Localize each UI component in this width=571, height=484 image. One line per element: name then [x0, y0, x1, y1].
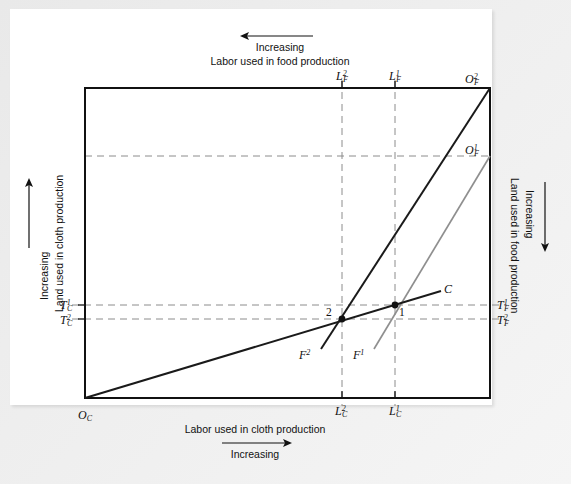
bottom-tick-label-l-c-2: L2C	[335, 404, 347, 420]
edgeworth-box	[85, 88, 490, 398]
point-2-label: 2	[326, 306, 332, 320]
point-marker-2	[339, 316, 346, 323]
origin-label-o-c: OC	[78, 408, 92, 424]
top-caption-increasing: Increasing	[180, 41, 380, 53]
curve-label-c: C	[444, 282, 452, 296]
right-tick-label-t-f-2: T2F	[497, 313, 509, 329]
bottom-tick-label-l-c-1: L1C	[389, 404, 401, 420]
dashed-guides	[72, 80, 505, 406]
left-caption-increasing: Increasing	[38, 252, 50, 300]
left-caption-label: Land used in cloth production	[53, 175, 65, 312]
bottom-caption-arrow	[222, 439, 292, 447]
curve-F1	[374, 156, 490, 349]
tick-marks	[78, 81, 395, 398]
point-marker-1	[392, 302, 399, 309]
right-caption-increasing: Increasing	[524, 190, 536, 238]
curve-C	[85, 291, 441, 398]
curve-label-f-2: F2	[299, 348, 310, 362]
right-caption-arrow	[541, 182, 549, 252]
left-tick-label-t-c-2: T2C	[60, 313, 72, 329]
bottom-caption-increasing: Increasing	[155, 448, 355, 460]
top-caption-arrow	[240, 32, 313, 40]
bottom-caption-label: Labor used in cloth production	[155, 423, 355, 435]
top-tick-label-l-f-1: L1F	[389, 69, 401, 85]
origin-label-o-f-2: O2F	[465, 72, 479, 88]
top-caption-label: Labor used in food production	[180, 55, 380, 67]
curve-F2	[321, 88, 490, 349]
right-caption-label: Land used in food production	[509, 178, 521, 313]
left-caption-arrow	[25, 178, 33, 248]
top-tick-label-l-f-2: L2F	[336, 69, 348, 85]
point-1-label: 1	[399, 306, 405, 320]
origin-label-o-f-1: O1F	[465, 143, 479, 159]
curve-label-f-1: F1	[353, 348, 364, 362]
right-tick-label-t-f-1: T1F	[497, 298, 509, 314]
left-tick-label-t-c-1: T1C	[60, 298, 72, 314]
